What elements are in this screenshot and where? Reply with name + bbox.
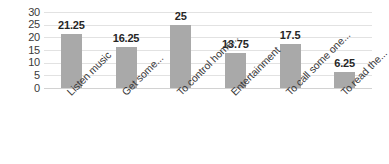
bar-value-label: 21.25 [44, 20, 98, 31]
bar-value-label: 16.25 [99, 33, 153, 44]
y-axis-tick: 0 [16, 83, 40, 94]
y-axis: 30 25 20 15 10 5 0 [16, 6, 40, 92]
axis-baseline [44, 88, 372, 89]
y-axis-tick: 30 [16, 7, 40, 18]
y-axis-tick: 15 [16, 45, 40, 56]
bar-value-label: 17.5 [263, 30, 317, 41]
y-axis-tick: 25 [16, 19, 40, 30]
x-axis: Listen musicGet some...To control home..… [44, 90, 372, 164]
y-axis-tick: 5 [16, 70, 40, 81]
gridline [44, 12, 372, 13]
bar-value-label: 25 [154, 11, 208, 22]
y-axis-tick: 10 [16, 57, 40, 68]
y-axis-tick: 20 [16, 32, 40, 43]
